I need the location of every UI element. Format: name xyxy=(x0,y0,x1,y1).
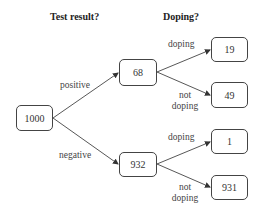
edge-label-neg-doping-2: doping xyxy=(169,193,201,204)
edge-neg-doping xyxy=(157,142,210,164)
node-root-value: 1000 xyxy=(25,113,45,124)
edge-label-pos-doping-2: doping xyxy=(169,101,201,112)
edge-label-pos-doping: doping xyxy=(168,39,194,50)
node-pos-not-doping-value: 49 xyxy=(225,90,235,101)
node-positive-value: 68 xyxy=(133,67,143,78)
edge-label-negative: negative xyxy=(59,150,91,161)
node-pos-not-doping: 49 xyxy=(211,82,248,108)
node-pos-doping-value: 19 xyxy=(225,44,235,55)
edge-label-pos-not: not xyxy=(169,90,201,101)
edge-label-pos-not-doping: not doping xyxy=(169,90,201,112)
node-negative: 932 xyxy=(119,152,157,177)
header-doping: Doping? xyxy=(163,11,199,22)
node-positive: 68 xyxy=(119,59,157,86)
edge-label-neg-not: not xyxy=(169,182,201,193)
probability-tree-diagram: Test result? Doping? 1000 68 932 19 49 1… xyxy=(0,0,263,214)
edge-label-neg-not-doping: not doping xyxy=(169,182,201,204)
header-test-result: Test result? xyxy=(50,11,99,22)
edge-pos-doping xyxy=(157,50,210,72)
node-neg-not-doping-value: 931 xyxy=(222,182,237,193)
edge-label-neg-doping: doping xyxy=(168,132,194,143)
node-neg-doping-value: 1 xyxy=(227,136,232,147)
node-root: 1000 xyxy=(16,105,53,131)
node-neg-doping: 1 xyxy=(211,129,248,154)
node-neg-not-doping: 931 xyxy=(211,175,248,200)
edge-label-positive: positive xyxy=(60,80,90,91)
node-pos-doping: 19 xyxy=(211,37,248,62)
node-negative-value: 932 xyxy=(131,159,146,170)
